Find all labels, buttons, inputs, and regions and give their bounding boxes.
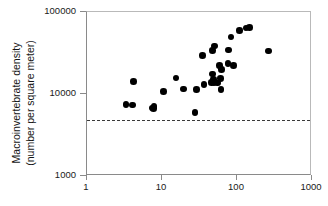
x-axis-tick-label: 1 bbox=[83, 182, 88, 192]
y-axis-tick-mark bbox=[80, 93, 86, 94]
x-axis-tick-mark bbox=[236, 175, 237, 180]
data-point bbox=[123, 101, 130, 108]
plot-area bbox=[86, 11, 311, 175]
data-point bbox=[236, 27, 243, 34]
data-point bbox=[193, 86, 200, 93]
y-axis-title-line-1: Macroinvertebrate density bbox=[9, 40, 23, 165]
scatter-plot-figure: Macroinvertebrate density (number per sq… bbox=[0, 0, 328, 206]
data-point bbox=[217, 75, 224, 82]
x-axis-tick-label: 10 bbox=[156, 182, 167, 192]
data-point bbox=[192, 109, 199, 116]
y-axis-tick-label: 100000 bbox=[16, 6, 76, 16]
data-point bbox=[230, 62, 237, 69]
data-point bbox=[211, 43, 218, 50]
y-axis-tick-label: 1000 bbox=[16, 170, 76, 180]
x-axis-tick-mark bbox=[86, 175, 87, 180]
x-axis-tick-label: 1000 bbox=[300, 182, 321, 192]
data-point bbox=[130, 78, 137, 85]
x-axis-tick-mark bbox=[311, 175, 312, 180]
data-point bbox=[218, 86, 225, 93]
data-point bbox=[201, 81, 208, 88]
data-point bbox=[218, 66, 225, 73]
x-axis-tick-label: 100 bbox=[228, 182, 244, 192]
data-point bbox=[246, 24, 253, 31]
x-axis-tick-mark bbox=[161, 175, 162, 180]
y-axis-title-line-2: (number per square meter) bbox=[23, 40, 37, 165]
data-point bbox=[199, 52, 206, 59]
data-point bbox=[180, 86, 187, 93]
y-axis-tick-mark bbox=[80, 11, 86, 12]
y-axis-tick-label: 10000 bbox=[16, 88, 76, 98]
data-point bbox=[265, 48, 272, 55]
data-point bbox=[160, 88, 167, 95]
threshold-dashed-line bbox=[87, 120, 310, 121]
